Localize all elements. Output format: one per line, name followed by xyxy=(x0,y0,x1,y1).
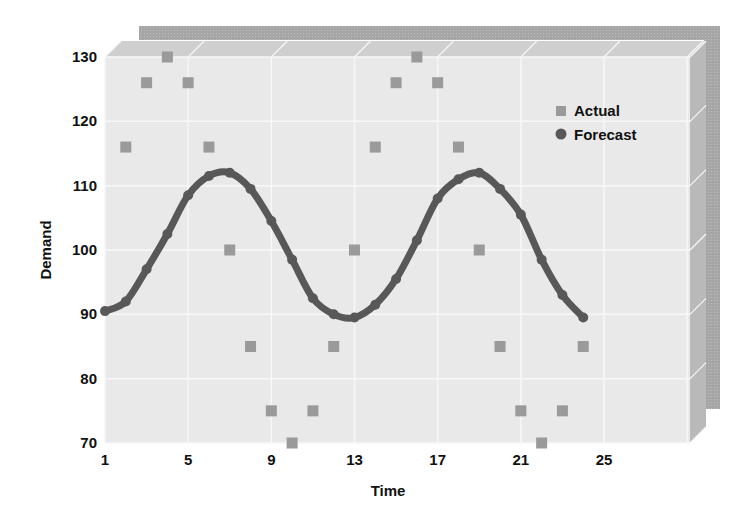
x-tick-label: 25 xyxy=(596,451,613,468)
forecast-point xyxy=(246,184,256,194)
panel-top-bevel xyxy=(105,41,706,57)
actual-point xyxy=(557,405,568,416)
forecast-point xyxy=(204,171,214,181)
y-tick-label: 100 xyxy=(72,241,97,258)
actual-point xyxy=(328,341,339,352)
actual-point xyxy=(411,52,422,63)
y-tick-label: 80 xyxy=(80,370,97,387)
actual-point xyxy=(495,341,506,352)
x-axis-ticks: 15913172125 xyxy=(101,451,613,468)
y-tick-label: 90 xyxy=(80,305,97,322)
x-axis-title: Time xyxy=(371,482,406,499)
y-tick-label: 70 xyxy=(80,434,97,451)
forecast-point xyxy=(412,235,422,245)
actual-point xyxy=(266,405,277,416)
forecast-point xyxy=(370,300,380,310)
forecast-point xyxy=(453,174,463,184)
actual-point xyxy=(162,52,173,63)
actual-point xyxy=(432,77,443,88)
legend-forecast-label: Forecast xyxy=(574,126,637,143)
forecast-point xyxy=(391,274,401,284)
actual-point xyxy=(515,405,526,416)
forecast-point xyxy=(287,255,297,265)
forecast-point xyxy=(516,210,526,220)
legend-actual-marker-icon xyxy=(556,106,566,116)
actual-point xyxy=(224,245,235,256)
demand-chart: 708090100110120130 15913172125 Time Dema… xyxy=(0,0,753,522)
x-tick-label: 17 xyxy=(429,451,446,468)
forecast-point xyxy=(121,296,131,306)
forecast-point xyxy=(495,184,505,194)
forecast-point xyxy=(578,313,588,323)
forecast-point xyxy=(537,255,547,265)
forecast-point xyxy=(433,194,443,204)
x-tick-label: 5 xyxy=(184,451,192,468)
forecast-point xyxy=(474,168,484,178)
actual-point xyxy=(307,405,318,416)
actual-point xyxy=(453,142,464,153)
actual-point xyxy=(474,245,485,256)
y-axis-ticks: 708090100110120130 xyxy=(72,48,97,451)
forecast-point xyxy=(557,290,567,300)
forecast-point xyxy=(266,216,276,226)
actual-point xyxy=(370,142,381,153)
forecast-point xyxy=(162,229,172,239)
actual-point xyxy=(349,245,360,256)
legend-actual-label: Actual xyxy=(574,102,620,119)
x-tick-label: 13 xyxy=(346,451,363,468)
y-axis-title: Demand xyxy=(37,220,54,279)
forecast-point xyxy=(329,309,339,319)
actual-point xyxy=(287,438,298,449)
legend-forecast-marker-icon xyxy=(556,129,567,140)
x-tick-label: 21 xyxy=(512,451,529,468)
x-tick-label: 1 xyxy=(101,451,109,468)
actual-point xyxy=(141,77,152,88)
actual-point xyxy=(391,77,402,88)
forecast-point xyxy=(350,313,360,323)
actual-point xyxy=(578,341,589,352)
actual-point xyxy=(183,77,194,88)
forecast-point xyxy=(308,293,318,303)
forecast-point xyxy=(225,168,235,178)
forecast-point xyxy=(100,306,110,316)
actual-point xyxy=(245,341,256,352)
forecast-point xyxy=(142,264,152,274)
actual-point xyxy=(120,142,131,153)
x-tick-label: 9 xyxy=(267,451,275,468)
y-tick-label: 110 xyxy=(73,177,97,194)
y-tick-label: 130 xyxy=(72,48,97,65)
actual-point xyxy=(203,142,214,153)
actual-point xyxy=(536,438,547,449)
y-tick-label: 120 xyxy=(72,112,97,129)
forecast-point xyxy=(183,190,193,200)
